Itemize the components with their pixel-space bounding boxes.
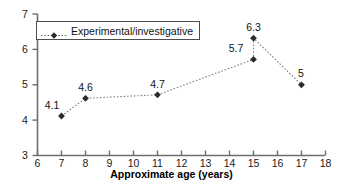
data-label-4-7: 4.7 (148, 78, 168, 90)
data-point-marker (250, 56, 257, 63)
y-tick-label-5: 5 (19, 78, 31, 90)
data-label-5: 5 (294, 67, 308, 79)
chart-legend: Experimental/investigative (36, 21, 200, 40)
data-label-6-3: 6.3 (244, 21, 264, 33)
y-tick-label-4: 4 (19, 114, 31, 126)
chart-container: 3 4 5 6 7 6 7 8 9 10 11 12 13 14 15 16 1… (0, 0, 343, 194)
legend-label-experimental-investigative: Experimental/investigative (71, 25, 193, 37)
series-line (62, 38, 302, 116)
y-tick-label-3: 3 (19, 149, 31, 161)
data-label-4-6: 4.6 (76, 81, 96, 93)
data-point-marker (58, 113, 65, 120)
data-series-experimental-investigative (58, 35, 305, 120)
data-point-marker (82, 95, 89, 102)
data-label-5-7: 5.7 (226, 42, 246, 54)
series-markers (58, 35, 305, 120)
data-point-marker (154, 91, 161, 98)
data-label-4-1: 4.1 (42, 99, 62, 111)
y-tick-label-6: 6 (19, 43, 31, 55)
legend-marker-icon (41, 26, 67, 35)
y-tick-label-7: 7 (19, 8, 31, 20)
data-point-marker (298, 81, 305, 88)
x-axis-title: Approximate age (years) (0, 168, 343, 180)
